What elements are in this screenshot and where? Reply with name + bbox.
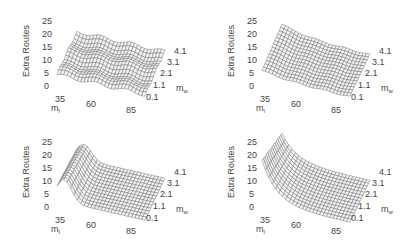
y-tick-label: 4.1 [379,47,392,56]
z-axis-label: Extra Routes [21,146,31,198]
y-tick-label: 2.1 [365,69,378,78]
z-tick-label: 10 [247,56,257,65]
z-tick-label: 25 [42,17,52,26]
y-axis-label: mw [381,84,393,96]
z-tick-label: 0 [44,203,49,212]
y-tick-label: 0.1 [351,214,364,223]
y-tick-label: 2.1 [160,69,173,78]
y-tick-label: 4.1 [174,47,187,56]
y-tick-label: 1.1 [358,81,371,90]
z-tick-label: 10 [247,177,257,186]
x-tick-label: 85 [331,227,341,236]
y-axis-label: mw [176,205,188,217]
surface-plot-bottom-right: 2520151050Extra Routes356085ml0.11.12.13… [205,121,410,242]
x-tick-label: 85 [126,227,136,236]
surface-plot-top-left: 2520151050Extra Routes356085ml0.11.12.13… [0,0,205,121]
z-tick-label: 5 [249,190,254,199]
y-axis-label: mw [176,84,188,96]
y-tick-label: 1.1 [358,202,371,211]
y-tick-label: 1.1 [153,81,166,90]
x-tick-label: 60 [291,221,301,230]
z-tick-label: 15 [247,43,257,52]
x-axis-label: ml [256,225,265,237]
y-axis-label: mw [381,205,393,217]
z-tick-label: 25 [247,138,257,147]
y-tick-label: 0.1 [146,214,159,223]
z-tick-label: 25 [42,138,52,147]
y-tick-label: 4.1 [174,168,187,177]
y-tick-label: 4.1 [379,168,392,177]
x-tick-label: 60 [86,221,96,230]
y-tick-label: 3.1 [372,179,385,188]
x-tick-label: 85 [126,106,136,115]
z-tick-label: 5 [44,69,49,78]
z-tick-label: 20 [42,151,52,160]
z-tick-label: 0 [249,203,254,212]
y-tick-label: 3.1 [372,58,385,67]
z-tick-label: 20 [247,151,257,160]
x-axis-label: ml [51,225,60,237]
y-tick-label: 0.1 [146,93,159,102]
z-tick-label: 0 [249,82,254,91]
z-tick-label: 15 [247,164,257,173]
surface-plot-top-right: 2520151050Extra Routes356085ml0.11.12.13… [205,0,410,121]
x-tick-label: 60 [86,100,96,109]
x-axis-label: ml [256,104,265,116]
y-tick-label: 0.1 [351,93,364,102]
z-tick-label: 25 [247,17,257,26]
z-tick-label: 10 [42,56,52,65]
x-tick-label: 85 [331,106,341,115]
y-tick-label: 3.1 [167,58,180,67]
z-tick-label: 5 [249,69,254,78]
z-tick-label: 10 [42,177,52,186]
y-tick-label: 1.1 [153,202,166,211]
y-tick-label: 2.1 [365,190,378,199]
z-axis-label: Extra Routes [21,25,31,77]
x-axis-label: ml [51,104,60,116]
z-tick-label: 15 [42,43,52,52]
z-axis-label: Extra Routes [226,25,236,77]
z-tick-label: 20 [42,30,52,39]
z-tick-label: 0 [44,82,49,91]
y-tick-label: 3.1 [167,179,180,188]
x-tick-label: 60 [291,100,301,109]
z-tick-label: 15 [42,164,52,173]
z-tick-label: 20 [247,30,257,39]
surface-plot-bottom-left: 2520151050Extra Routes356085ml0.11.12.13… [0,121,205,242]
z-axis-label: Extra Routes [226,146,236,198]
y-tick-label: 2.1 [160,190,173,199]
z-tick-label: 5 [44,190,49,199]
